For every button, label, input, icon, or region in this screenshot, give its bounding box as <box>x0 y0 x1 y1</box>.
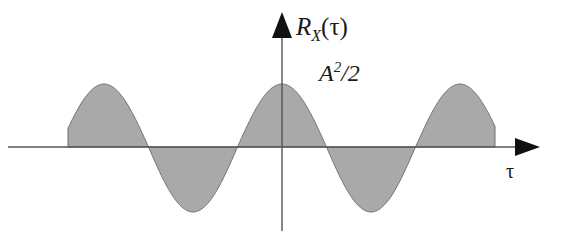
peak-amplitude-label: A2/2 <box>319 60 360 85</box>
plot-canvas <box>0 0 563 246</box>
y-axis-label: RX(τ) <box>296 14 348 44</box>
y-axis-label-base: R <box>296 13 311 40</box>
x-axis-label: τ <box>506 161 514 181</box>
autocorrelation-figure: RX(τ) A2/2 τ <box>0 0 563 246</box>
amplitude-base: A <box>319 60 334 86</box>
x-axis-arrow-icon <box>515 138 540 156</box>
amplitude-divisor: /2 <box>341 60 360 86</box>
y-axis-label-subscript: X <box>311 27 321 44</box>
y-axis-label-argument: (τ) <box>321 13 348 40</box>
y-axis-arrow-icon <box>272 12 292 38</box>
